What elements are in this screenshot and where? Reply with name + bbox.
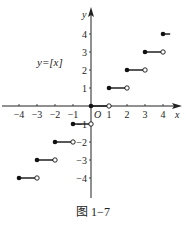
y-tick-label: 2 <box>82 65 87 76</box>
y-axis-label: y <box>81 9 87 20</box>
open-point <box>53 158 57 162</box>
closed-point <box>125 68 130 73</box>
y-tick-label: −2 <box>76 137 87 148</box>
x-tick-label: 2 <box>125 109 130 120</box>
open-point <box>125 86 129 90</box>
open-point <box>35 176 39 180</box>
open-point <box>107 104 111 108</box>
closed-point <box>53 140 58 145</box>
x-tick-label: −3 <box>32 109 43 120</box>
closed-point <box>35 158 40 163</box>
x-tick-label: 3 <box>143 109 148 120</box>
y-tick-label: 1 <box>82 83 87 94</box>
x-tick-label: 1 <box>107 109 112 120</box>
x-tick-label: −4 <box>14 109 25 120</box>
function-label: y=[x] <box>36 56 63 68</box>
y-tick-label: −3 <box>76 155 87 166</box>
y-tick-label: 3 <box>82 47 87 58</box>
closed-point <box>71 122 76 127</box>
step-function-chart: −4−3−2−11234−4−3−2−11234xyOy=[x] <box>0 0 186 200</box>
figure-caption: 图 1−7 <box>0 202 186 220</box>
closed-point <box>143 50 148 55</box>
open-point <box>71 140 75 144</box>
closed-point <box>161 32 166 37</box>
x-axis-label: x <box>174 109 180 120</box>
open-point <box>143 68 147 72</box>
closed-point <box>89 104 94 109</box>
open-point <box>161 50 165 54</box>
open-point <box>89 122 93 126</box>
origin-label: O <box>94 109 101 120</box>
y-tick-label: 4 <box>82 29 87 40</box>
y-tick-label: −4 <box>76 173 87 184</box>
closed-point <box>107 86 112 91</box>
closed-point <box>17 176 22 181</box>
x-tick-label: 4 <box>161 109 166 120</box>
x-tick-label: −2 <box>50 109 61 120</box>
